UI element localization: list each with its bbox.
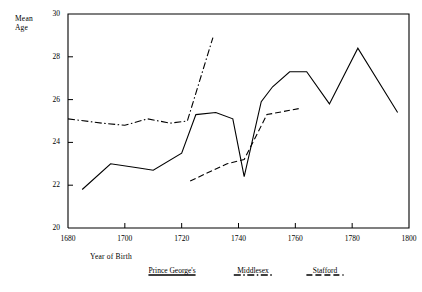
y-tick-label: 28 [38, 52, 60, 61]
x-tick-label: 1700 [109, 234, 141, 243]
series-line-1 [68, 38, 213, 126]
y-tick-label: 30 [38, 9, 60, 18]
plot-frame [68, 14, 409, 228]
x-tick-label: 1800 [393, 234, 422, 243]
x-tick-label: 1740 [223, 234, 255, 243]
y-tick-label: 20 [38, 223, 60, 232]
x-tick-label: 1760 [279, 234, 311, 243]
legend-item: Prince George's [134, 266, 210, 275]
x-tick-label: 1680 [52, 234, 84, 243]
legend-swatch [295, 271, 355, 277]
legend-swatch [134, 271, 210, 277]
plot-canvas [0, 0, 422, 292]
y-tick-label: 26 [38, 95, 60, 104]
x-tick-label: 1720 [166, 234, 198, 243]
y-tick-label: 24 [38, 137, 60, 146]
x-tick-label: 1780 [336, 234, 368, 243]
legend-swatch [222, 271, 284, 277]
legend-item: Stafford [295, 266, 355, 275]
series-line-0 [82, 48, 397, 189]
y-tick-label: 22 [38, 180, 60, 189]
legend-item: Middlesex [222, 266, 284, 275]
chart-figure: Mean Age Year of Birth 202224262830 1680… [0, 0, 422, 292]
